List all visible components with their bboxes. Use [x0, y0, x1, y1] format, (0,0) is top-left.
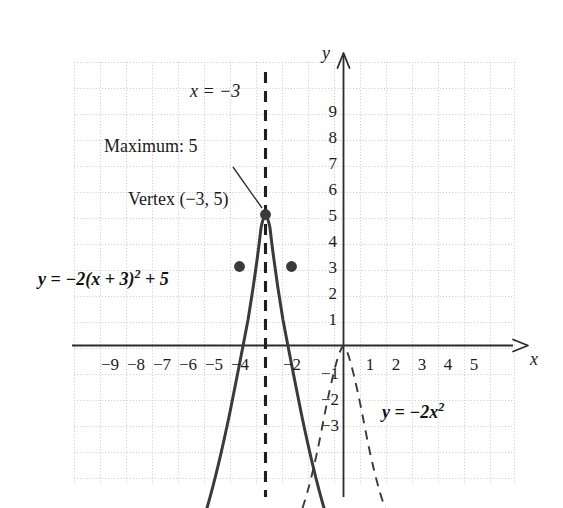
y-axis-label: y [322, 44, 330, 62]
x-tick-5: 5 [470, 356, 479, 373]
x-tick-3: 3 [418, 356, 427, 373]
y-tick-6: 6 [329, 181, 338, 198]
x-tick-4: 4 [444, 356, 453, 373]
equation-parent-label: y = −2x2 [382, 401, 444, 421]
y-axis [338, 53, 350, 497]
x-tick-minus-4: −4 [231, 356, 249, 373]
equation-parent-exponent: 2 [438, 400, 444, 414]
y-tick-2: 2 [329, 285, 338, 302]
x-tick-minus-7: −7 [153, 356, 171, 373]
graph-figure: y x 9 8 7 6 5 4 3 2 1 −1 −2 −3 −9 −8 −7 … [0, 0, 563, 508]
vertex-point [260, 209, 271, 220]
y-tick-9: 9 [329, 103, 338, 120]
y-tick-minus-1: −1 [321, 365, 339, 382]
x-axis-label: x [530, 350, 538, 368]
maximum-label: Maximum: 5 [104, 137, 198, 155]
right-point [286, 261, 297, 272]
equation-transformed-label: y = −2(x + 3)2 + 5 [38, 268, 169, 288]
x-tick-minus-2: −2 [283, 356, 301, 373]
y-tick-minus-3: −3 [321, 417, 339, 434]
x-tick-minus-5: −5 [205, 356, 223, 373]
x-tick-minus-6: −6 [179, 356, 197, 373]
x-tick-1: 1 [366, 356, 375, 373]
x-axis [72, 340, 528, 352]
equation-transformed-suffix: + 5 [141, 269, 169, 289]
y-tick-3: 3 [329, 259, 338, 276]
vertex-label: Vertex (−3, 5) [128, 190, 229, 208]
maximum-leader-line [233, 167, 262, 208]
y-tick-5: 5 [329, 207, 338, 224]
axis-of-symmetry-label: x = −3 [190, 82, 240, 100]
coordinate-plane-svg [0, 0, 563, 508]
equation-transformed-main: y = −2(x + 3) [38, 269, 134, 289]
y-tick-7: 7 [329, 155, 338, 172]
y-tick-1: 1 [329, 311, 338, 328]
y-tick-minus-2: −2 [321, 391, 339, 408]
equation-parent-main: y = −2x [382, 402, 438, 422]
x-tick-minus-9: −9 [101, 356, 119, 373]
left-point [234, 261, 245, 272]
y-tick-8: 8 [329, 129, 338, 146]
x-tick-2: 2 [392, 356, 401, 373]
x-tick-minus-8: −8 [127, 356, 145, 373]
y-tick-4: 4 [329, 233, 338, 250]
